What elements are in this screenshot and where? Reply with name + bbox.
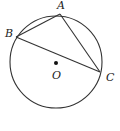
label-b: B bbox=[4, 27, 13, 40]
geometry-diagram: A B C O bbox=[0, 0, 120, 131]
center-point-o bbox=[54, 61, 58, 65]
segment-ab bbox=[16, 14, 60, 37]
label-a: A bbox=[56, 0, 65, 12]
label-o: O bbox=[52, 69, 61, 82]
label-c: C bbox=[106, 71, 115, 84]
